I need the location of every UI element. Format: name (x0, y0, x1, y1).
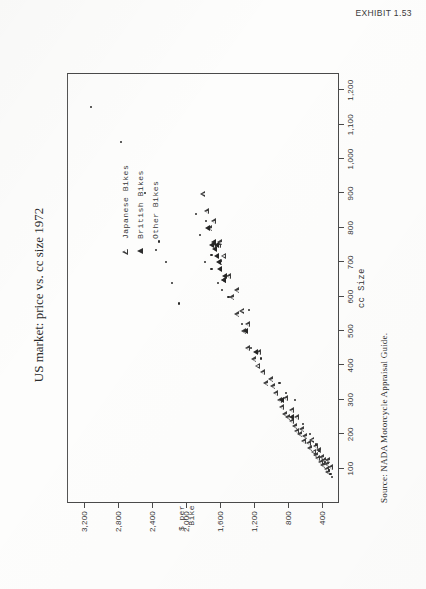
data-point-jap (270, 383, 275, 389)
data-point-other (165, 261, 167, 263)
rotated-figure: US market: price vs. cc size 1972 100200… (27, 35, 399, 555)
data-point-other (318, 450, 320, 452)
data-point-jap (279, 403, 284, 409)
data-point-brit (205, 225, 210, 231)
data-point-jap (211, 218, 216, 224)
dot-icon-glyph (155, 248, 157, 250)
data-point-other (250, 347, 252, 349)
y-axis-price: 4008001,2001,6002,0002,4002,8003,200 (67, 503, 339, 555)
data-point-other (217, 281, 219, 283)
x-tick-label: 1,000 (346, 148, 355, 169)
data-point-other (302, 422, 304, 424)
data-point-jap (273, 390, 278, 396)
source-note: Source: NADA Motorcycle Appraisal Guide. (379, 332, 389, 502)
data-point-brit (222, 273, 227, 279)
chart-title: US market: price vs. cc size 1972 (31, 35, 47, 555)
y-tick (152, 503, 153, 508)
data-point-jap (260, 369, 265, 375)
data-point-jap (245, 345, 250, 351)
y-axis-title: $ per Bike (177, 505, 197, 561)
data-point-other (90, 106, 92, 108)
data-point-other (331, 476, 333, 478)
data-point-other (227, 295, 229, 297)
data-point-jap (251, 355, 256, 361)
data-point-other (120, 140, 122, 142)
x-tick-label: 900 (346, 186, 355, 200)
data-point-jap (282, 410, 287, 416)
data-point-brit (243, 328, 248, 334)
x-tick (339, 364, 344, 365)
data-point-jap (204, 207, 209, 213)
y-axis-title-line-1: $ per (177, 505, 187, 561)
data-point-jap (294, 414, 299, 420)
y-tick-label: 800 (284, 511, 293, 525)
scatter-points-layer (67, 73, 339, 503)
x-tick (339, 192, 344, 193)
y-tick-label: 2,800 (114, 511, 123, 532)
x-tick-label: 700 (346, 255, 355, 269)
y-tick (288, 503, 289, 508)
chart-legend: Japanese BikesBritish BikesOther Bikes (119, 164, 164, 254)
legend-label: Japanese Bikes (121, 164, 130, 238)
data-point-jap (255, 362, 260, 368)
exhibit-label: EXHIBIT 1.53 (355, 8, 412, 18)
triangle-filled-icon-glyph (137, 248, 143, 254)
data-point-other (195, 212, 197, 214)
data-point-brit (214, 252, 219, 258)
scanned-page: EXHIBIT 1.53 US market: price vs. cc siz… (0, 0, 426, 589)
x-tick-label: 1,200 (346, 79, 355, 100)
x-tick (339, 158, 344, 159)
data-point-other (204, 261, 206, 263)
data-point-other (309, 433, 311, 435)
data-point-brit (217, 266, 222, 272)
data-point-other (210, 254, 212, 256)
data-point-brit (289, 414, 294, 420)
y-tick-label: 1,600 (216, 511, 225, 532)
x-tick (339, 226, 344, 227)
y-tick (118, 503, 119, 508)
data-point-jap (221, 252, 226, 258)
data-point-jap (302, 433, 307, 439)
data-point-other (221, 288, 223, 290)
data-point-jap (239, 307, 244, 313)
data-point-other (278, 381, 280, 383)
data-point-other (285, 391, 287, 393)
y-axis-title-line-2: Bike (187, 505, 197, 561)
y-tick (254, 503, 255, 508)
data-point-other (241, 323, 243, 325)
data-point-jap (289, 407, 294, 413)
legend-item: Other Bikes (149, 164, 162, 254)
x-tick (339, 467, 344, 468)
x-tick (339, 295, 344, 296)
y-tick (322, 503, 323, 508)
data-point-jap (245, 321, 250, 327)
legend-item: British Bikes (134, 164, 147, 254)
data-point-jap (268, 376, 273, 382)
y-tick-label: 400 (318, 511, 327, 525)
legend-label: British Bikes (136, 170, 145, 239)
x-tick (339, 330, 344, 331)
data-point-brit (211, 238, 216, 244)
triangle-open-icon (120, 244, 131, 255)
legend-item: Japanese Bikes (119, 164, 132, 254)
triangle-filled-icon (135, 244, 146, 255)
x-tick-label: 400 (346, 358, 355, 372)
x-tick-label: 800 (346, 220, 355, 234)
data-point-jap (229, 293, 234, 299)
x-tick-label: 500 (346, 324, 355, 338)
x-tick (339, 398, 344, 399)
x-tick (339, 433, 344, 434)
dot-icon (150, 244, 161, 255)
y-tick (84, 503, 85, 508)
data-point-other (315, 443, 317, 445)
data-point-other (178, 302, 180, 304)
data-point-jap (319, 453, 324, 459)
data-point-other (260, 357, 262, 359)
data-point-other (329, 472, 331, 474)
data-point-jap (299, 426, 304, 432)
triangle-open-icon-glyph (122, 248, 128, 254)
data-point-jap (309, 436, 314, 442)
data-point-brit (216, 259, 221, 265)
data-point-other (210, 268, 212, 270)
x-tick (339, 261, 344, 262)
